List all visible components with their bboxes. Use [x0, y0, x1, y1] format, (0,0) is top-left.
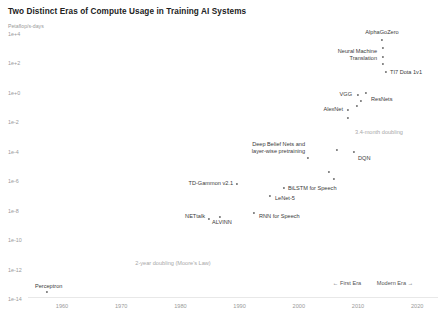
- y-axis-tick: 1e-12: [8, 267, 22, 273]
- y-axis-tick: 1e+0: [8, 90, 20, 96]
- point-label-nettalk: NETtalk: [185, 213, 205, 220]
- data-point-neural-machine-translation: [382, 56, 384, 58]
- x-axis-tick: 2000: [293, 303, 305, 309]
- point-label-vgg: VGG: [340, 91, 352, 98]
- y-axis-tick: 1e+4: [8, 31, 20, 37]
- data-point-ti7-dota-1v1: [385, 71, 387, 73]
- x-axis-line: [28, 297, 438, 298]
- y-axis-tick: 1e-10: [8, 237, 22, 243]
- data-point-lenet-5: [269, 195, 271, 197]
- chart-container: Two Distinct Eras of Compute Usage in Tr…: [0, 0, 442, 323]
- data-point-unlabeled-2: [382, 63, 384, 65]
- point-label-lenet-5: LeNet-5: [275, 195, 295, 202]
- point-label-alexnet: AlexNet: [323, 106, 343, 113]
- x-axis-tick: 2020: [411, 303, 423, 309]
- point-label-perceptron: Perceptron: [35, 283, 62, 290]
- data-point-AlphaGoZero: [381, 39, 383, 41]
- point-label-bilstm-for-speech: BiLSTM for Speech: [288, 185, 337, 192]
- x-axis-tick: 2010: [352, 303, 364, 309]
- x-axis-tick: 1960: [56, 303, 68, 309]
- y-axis-tick: 1e-6: [8, 178, 19, 184]
- era-label-first-era: ← First Era: [333, 280, 361, 286]
- data-point-unlabeled-7: [328, 171, 330, 173]
- data-point-unlabeled-4: [356, 105, 358, 107]
- data-point-alexnet: [347, 109, 349, 111]
- data-point-perceptron: [46, 291, 48, 293]
- point-label-deep-belief-nets: Deep Belief Nets andlayer-wise pretraini…: [252, 141, 305, 155]
- data-point-nettalk: [208, 218, 210, 220]
- x-axis-tick: 1970: [115, 303, 127, 309]
- data-point-dqn: [353, 151, 355, 153]
- point-label-alvinn: ALVINN: [212, 219, 232, 226]
- plot-area: 1e+41e+21e+01e-21e-41e-61e-81e-101e-121e…: [0, 0, 442, 323]
- annotation-doubling-2-year: 2-year doubling (Moore's Law): [135, 260, 210, 267]
- y-axis-tick: 1e-4: [8, 149, 19, 155]
- data-point-td-gammon-v2.1: [236, 183, 238, 185]
- y-axis-tick: 1e-8: [8, 208, 19, 214]
- data-point-vgg: [357, 94, 359, 96]
- y-axis-tick: 1e-2: [8, 119, 19, 125]
- data-point-rnn-for-speech: [253, 212, 255, 214]
- point-label-neural-machine-translation: Neural MachineTranslation: [338, 48, 377, 62]
- point-label-dqn: DQN: [358, 155, 370, 162]
- point-label-td-gammon-v2.1: TD-Gammon v2.1: [189, 180, 233, 187]
- point-label-AlphaGoZero: AlphaGoZero: [365, 29, 398, 36]
- data-point-unlabeled-6: [336, 149, 338, 151]
- y-axis-tick: 1e-14: [8, 296, 22, 302]
- data-point-unlabeled-3: [360, 100, 362, 102]
- annotation-doubling-3-4-month: 3.4-month doubling: [355, 129, 403, 136]
- point-label-resnets: ResNets: [371, 96, 392, 103]
- data-point-bilstm-for-speech: [283, 187, 285, 189]
- data-point-deep-belief-nets: [307, 157, 309, 159]
- point-label-rnn-for-speech: RNN for Speech: [259, 213, 300, 220]
- point-label-ti7-dota-1v1: TI7 Dota 1v1: [390, 69, 422, 76]
- x-axis-tick: 1990: [233, 303, 245, 309]
- data-point-unlabeled-1: [382, 47, 384, 49]
- data-point-unlabeled-5: [347, 117, 349, 119]
- y-axis-tick: 1e+2: [8, 60, 20, 66]
- era-label-modern-era: Modern Era →: [377, 280, 413, 286]
- data-point-unlabeled-8: [333, 178, 335, 180]
- x-axis-tick: 1980: [174, 303, 186, 309]
- data-point-resnets: [365, 92, 367, 94]
